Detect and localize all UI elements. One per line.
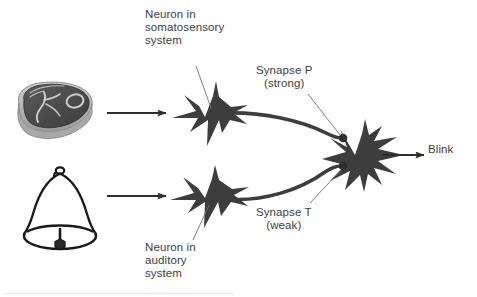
synapse-t-terminal <box>339 162 348 171</box>
label-synapse-p: Synapse P (strong) <box>256 64 313 90</box>
bell-icon <box>24 167 96 249</box>
label-somatosensory-neuron: Neuron in somatosensory system <box>145 8 224 48</box>
leader-synapse-t <box>310 170 341 203</box>
diagram-svg <box>0 0 477 297</box>
label-auditory-neuron: Neuron in auditory system <box>145 241 196 281</box>
bottom-rule <box>4 293 234 294</box>
label-synapse-t: Synapse T (weak) <box>256 206 312 232</box>
label-blink-output: Blink <box>428 143 453 156</box>
steak-icon <box>18 82 92 138</box>
figure-canvas: Neuron in somatosensory system Neuron in… <box>0 0 477 297</box>
